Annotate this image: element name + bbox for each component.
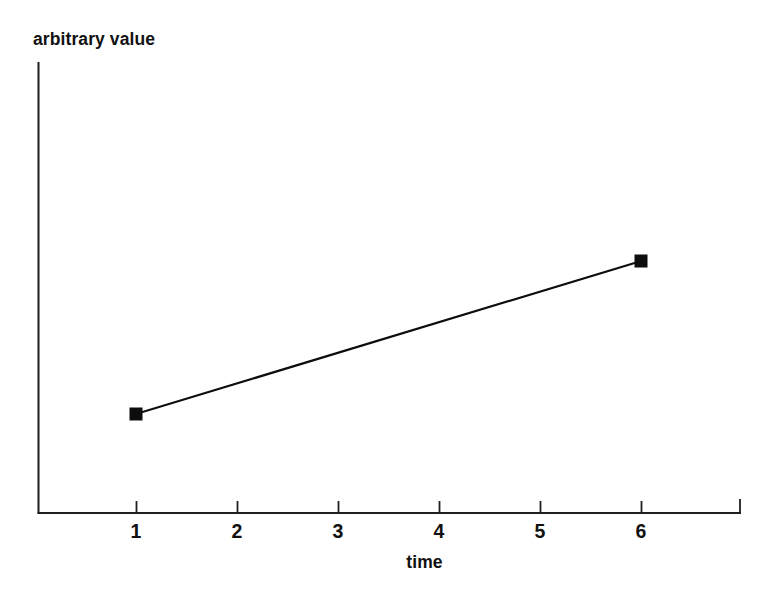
x-tick-label-1: 1 [116, 519, 156, 543]
x-axis-ticks [137, 499, 741, 513]
data-line-series-1 [136, 261, 641, 414]
x-tick-label-3: 3 [318, 519, 358, 543]
data-point-marker [635, 255, 648, 268]
plot-area [0, 0, 767, 604]
x-tick-label-2: 2 [217, 519, 257, 543]
data-point-marker [130, 408, 143, 421]
x-tick-label-5: 5 [520, 519, 560, 543]
x-tick-label-4: 4 [419, 519, 459, 543]
x-axis-label: time [41, 552, 767, 573]
x-tick-label-6: 6 [621, 519, 661, 543]
chart-figure: arbitrary value 1 2 3 4 5 6 time [0, 0, 767, 604]
